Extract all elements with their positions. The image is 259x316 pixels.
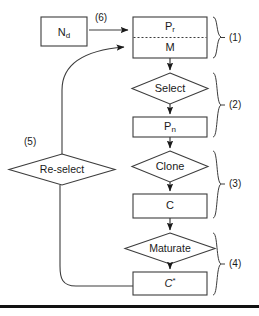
bottom-divider <box>0 305 259 308</box>
group-label-3: (3) <box>229 178 241 189</box>
node-reselect-label: Re-select <box>40 163 84 175</box>
node-cstar: C* <box>133 272 207 295</box>
group-label-1: (1) <box>229 32 241 43</box>
edge-cstar-to-reselect <box>60 185 133 286</box>
brace-group-4: (4) <box>213 233 241 295</box>
node-m-label: M <box>165 41 174 53</box>
node-select-label: Select <box>155 82 186 94</box>
node-clone-label: Clone <box>156 160 185 172</box>
node-pr-m: Pr M <box>133 17 207 58</box>
node-cstar-label: C <box>164 277 172 289</box>
brace-group-3: (3) <box>213 151 241 218</box>
node-nd-label: N <box>58 25 66 37</box>
node-pn: Pn <box>133 117 207 137</box>
node-pn-label: P <box>164 120 171 132</box>
node-cstar-suplabel: * <box>172 276 175 285</box>
group-label-2: (2) <box>229 99 241 110</box>
node-pn-sublabel: n <box>171 125 175 134</box>
flowchart-figure: Nd Pr M Select Pn Clone <box>0 0 259 316</box>
edge-label-5: (5) <box>24 136 36 147</box>
node-clone: Clone <box>132 151 208 182</box>
node-c: C <box>133 194 207 218</box>
node-pr-sublabel: r <box>172 25 175 34</box>
node-nd-sublabel: d <box>66 31 70 40</box>
node-reselect: Re-select <box>9 154 115 185</box>
edge-reselect-to-m <box>62 47 124 154</box>
group-label-4: (4) <box>229 258 241 269</box>
brace-group-1: (1) <box>213 17 241 58</box>
node-select: Select <box>132 73 208 104</box>
node-maturate-label: Maturate <box>149 242 191 254</box>
node-c-label: C <box>166 199 174 211</box>
brace-group-2: (2) <box>213 73 241 137</box>
edge-label-6: (6) <box>95 12 107 23</box>
node-maturate: Maturate <box>125 233 215 264</box>
node-nd: Nd <box>41 17 87 46</box>
node-pr-label: P <box>165 20 172 32</box>
